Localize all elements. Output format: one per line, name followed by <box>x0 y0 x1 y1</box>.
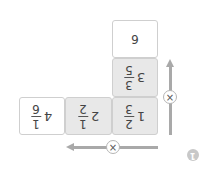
denominator: 2 <box>79 103 87 115</box>
whole-part: 3 <box>137 70 145 85</box>
denominator: 3 <box>126 103 134 115</box>
multiply-operator-vertical: × <box>163 90 177 104</box>
fraction: 2 3 <box>124 103 134 130</box>
multiply-icon: × <box>109 142 117 153</box>
multiply-operator-horizontal: × <box>106 140 120 154</box>
box-column-middle: 3 3 5 <box>112 58 158 97</box>
mixed-number-3-3-5: 3 3 5 <box>124 64 145 91</box>
fraction: 1 6 <box>31 103 41 130</box>
box-corner: 1 2 3 <box>112 97 158 135</box>
whole-part: 2 <box>91 109 99 124</box>
fraction-bar <box>124 77 134 78</box>
box-row-middle: 2 1 2 <box>65 97 112 135</box>
box-top-content: 6 <box>131 32 139 46</box>
denominator: 5 <box>126 64 134 76</box>
mixed-number-1-2-3: 1 2 3 <box>124 103 145 130</box>
badge-label: 1 <box>190 151 196 160</box>
fraction: 1 2 <box>78 103 88 130</box>
whole-part: 1 <box>137 109 145 124</box>
numerator: 1 <box>79 118 87 130</box>
box-left[interactable]: 4 1 6 <box>19 97 65 135</box>
mixed-number-4-1-6: 4 1 6 <box>31 103 52 130</box>
arrow-up-icon <box>166 59 174 67</box>
numerator: 2 <box>126 118 134 130</box>
numerator: 3 <box>126 79 134 91</box>
fraction: 3 5 <box>124 64 134 91</box>
multiply-icon: × <box>166 92 174 103</box>
value-top: 6 <box>131 32 139 46</box>
box-top: 6 <box>112 20 158 58</box>
numerator: 1 <box>33 118 41 130</box>
mixed-number-2-1-2: 2 1 2 <box>78 103 99 130</box>
step-badge: 1 <box>187 149 199 161</box>
denominator: 6 <box>33 103 41 115</box>
whole-part: 4 <box>44 109 52 124</box>
arrow-left-icon <box>66 143 74 151</box>
